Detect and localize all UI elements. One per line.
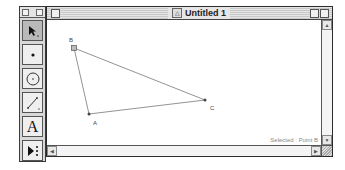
label-a[interactable]: A [93, 120, 97, 126]
selection-status: Selected : Point B [270, 137, 318, 143]
vertical-scrollbar[interactable]: ▲ ▼ [321, 20, 332, 145]
compass-circle-icon [25, 71, 41, 87]
tool-point[interactable] [22, 44, 43, 65]
sketch-window: △ Untitled 1 B A C Selected : Point B ▲ … [46, 6, 333, 157]
custom-tool-icon [25, 143, 41, 159]
window-titlebar[interactable]: △ Untitled 1 [47, 7, 332, 20]
scroll-left-button[interactable]: ◀ [47, 146, 57, 156]
down-arrow-icon: ▼ [325, 137, 330, 143]
scroll-up-button[interactable]: ▲ [322, 20, 332, 30]
document-icon: △ [172, 8, 182, 18]
collapse-box[interactable] [320, 9, 329, 18]
horizontal-scrollbar[interactable]: ◀ ▶ [47, 145, 321, 156]
up-arrow-icon: ▲ [325, 22, 330, 28]
toolbox-palette: A [19, 6, 46, 162]
label-c[interactable]: C [210, 105, 215, 111]
arrow-cursor-icon [26, 24, 40, 38]
text-tool-icon: A [27, 119, 39, 135]
left-arrow-icon: ◀ [50, 148, 54, 154]
scroll-right-button[interactable]: ▶ [311, 146, 321, 156]
triangle-sketch: B A C [47, 20, 323, 146]
right-arrow-icon: ▶ [314, 148, 318, 154]
window-title-text: Untitled 1 [185, 8, 226, 18]
straightedge-line-icon [25, 95, 41, 111]
point-a[interactable] [88, 113, 91, 116]
toolbox-titlebar[interactable] [20, 7, 45, 18]
point-b-selected[interactable] [72, 46, 77, 51]
close-box[interactable] [51, 9, 60, 18]
point-c[interactable] [204, 99, 207, 102]
scroll-down-button[interactable]: ▼ [322, 135, 332, 145]
segment-ac[interactable] [89, 100, 205, 114]
resize-grow-box[interactable] [321, 145, 332, 156]
sketch-canvas[interactable]: B A C [47, 20, 321, 145]
point-icon [26, 48, 40, 62]
label-b[interactable]: B [69, 37, 73, 43]
tool-compass[interactable] [22, 68, 43, 89]
segment-ba[interactable] [74, 48, 89, 114]
tool-straightedge[interactable] [22, 92, 43, 113]
window-title: △ Untitled 1 [168, 7, 230, 19]
zoom-box[interactable] [310, 9, 319, 18]
segment-bc[interactable] [74, 48, 205, 100]
toolbox-collapse-box[interactable] [36, 9, 43, 16]
tool-text[interactable]: A [22, 116, 43, 137]
toolbox-close-box[interactable] [22, 9, 29, 16]
tool-selection-arrow[interactable] [22, 20, 43, 41]
tool-custom[interactable] [22, 140, 43, 161]
